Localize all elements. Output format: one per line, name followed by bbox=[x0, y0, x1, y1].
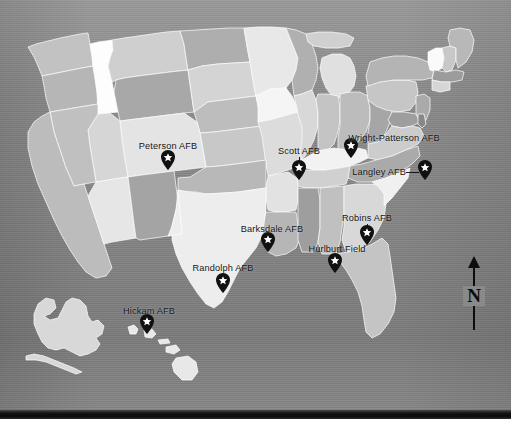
state-hawaii-molokai bbox=[158, 339, 170, 344]
state-alaska bbox=[34, 298, 104, 356]
marker-pin-randolph[interactable] bbox=[216, 273, 231, 293]
marker-label-langley: Langley AFB bbox=[352, 167, 406, 177]
marker-label-peterson: Peterson AFB bbox=[139, 141, 198, 151]
contiguous-states bbox=[28, 27, 474, 338]
marker-label-randolph: Randolph AFB bbox=[192, 263, 253, 273]
state-maryland bbox=[388, 112, 420, 128]
marker-label-hickam: Hickam AFB bbox=[123, 306, 175, 316]
bottom-dark-band bbox=[0, 410, 511, 419]
us-map-svg bbox=[0, 0, 511, 412]
state-new-hampshire bbox=[442, 46, 456, 72]
state-alaska-aleutian bbox=[26, 354, 82, 374]
map-screenshot: Peterson AFB Scott AFB Wright-Patterson … bbox=[0, 0, 511, 433]
marker-label-scott: Scott AFB bbox=[278, 146, 320, 156]
marker-label-hurlburt: Hurlburt Field bbox=[308, 244, 365, 254]
state-michigan-up bbox=[306, 32, 354, 48]
north-arrow-label: N bbox=[463, 286, 485, 306]
marker-pin-hickam[interactable] bbox=[140, 314, 155, 334]
marker-pin-robins[interactable] bbox=[360, 225, 375, 245]
marker-label-barksdale: Barksdale AFB bbox=[241, 224, 304, 234]
marker-pin-scott[interactable] bbox=[292, 160, 307, 180]
state-indiana bbox=[316, 94, 340, 152]
state-hawaii-maui bbox=[166, 345, 180, 354]
us-map bbox=[0, 0, 511, 412]
north-arrow: N bbox=[463, 256, 485, 332]
state-michigan bbox=[320, 54, 356, 98]
state-hawaii-big-island bbox=[172, 356, 198, 380]
marker-pin-hurlburt[interactable] bbox=[328, 253, 343, 273]
state-massachusetts bbox=[432, 70, 464, 82]
state-alaska-group bbox=[26, 298, 104, 374]
marker-pin-peterson[interactable] bbox=[161, 150, 176, 170]
state-mississippi bbox=[298, 188, 320, 252]
marker-label-robins: Robins AFB bbox=[342, 213, 392, 223]
bottom-white-strip bbox=[0, 419, 511, 433]
state-vermont bbox=[428, 48, 444, 72]
marker-pin-barksdale[interactable] bbox=[261, 232, 276, 252]
state-hawaii-group bbox=[128, 325, 198, 380]
marker-pin-langley[interactable] bbox=[418, 160, 433, 180]
state-connecticut bbox=[432, 80, 450, 92]
state-hawaii-kauai bbox=[128, 325, 138, 334]
marker-label-wright-patterson: Wright-Patterson AFB bbox=[348, 133, 440, 143]
